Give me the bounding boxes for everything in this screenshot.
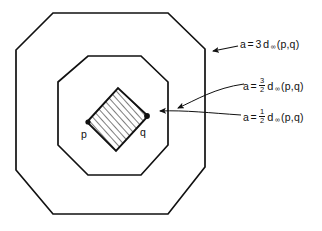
annotation-args-outer: (p,q) [277, 38, 300, 50]
fraction-denominator-inner: 2 [259, 117, 265, 125]
annotation-equals-middle: = [251, 80, 257, 92]
annotation-subscript-middle: ∞ [275, 85, 280, 92]
annotation-fraction-middle: 3 2 [259, 77, 265, 94]
annotation-coefficient-outer: 3 [255, 38, 261, 50]
point-label-p: p [81, 128, 87, 140]
annotation-args-inner: (p,q) [281, 111, 304, 123]
annotation-variable-inner: a [243, 111, 249, 123]
annotation-equals-outer: = [248, 38, 254, 50]
leader-tip-outer [205, 51, 213, 56]
annotation-variable-outer: a [240, 38, 246, 50]
leader-line-middle [178, 84, 244, 108]
fraction-numerator-inner: 1 [259, 108, 265, 116]
annotation-equals-inner: = [251, 111, 257, 123]
leader-line-outer [213, 46, 238, 51]
annotation-args-middle: (p,q) [281, 80, 304, 92]
fraction-numerator-middle: 3 [259, 77, 265, 85]
annotation-metric-outer: d [263, 38, 269, 50]
annotation-subscript-outer: ∞ [271, 43, 276, 50]
annotation-label-outer: a = 3 d∞ (p,q) [240, 38, 299, 50]
distance-region-figure: a = 3 d∞ (p,q) a = 3 2 d∞ (p,q) a = 1 [0, 0, 322, 231]
point-label-q: q [140, 126, 146, 138]
annotation-label-middle: a = 3 2 d∞ (p,q) [243, 77, 304, 94]
annotation-metric-inner: d [267, 111, 273, 123]
annotation-subscript-inner: ∞ [275, 116, 280, 123]
annotation-variable-middle: a [243, 80, 249, 92]
annotation-metric-middle: d [267, 80, 273, 92]
point-marker-p [85, 119, 90, 124]
fraction-denominator-middle: 2 [259, 86, 265, 94]
annotation-label-inner: a = 1 2 d∞ (p,q) [243, 108, 304, 125]
leader-line-inner [160, 111, 241, 115]
point-marker-q [144, 113, 150, 119]
inner-diamond [87, 88, 148, 151]
annotation-fraction-inner: 1 2 [259, 108, 265, 125]
